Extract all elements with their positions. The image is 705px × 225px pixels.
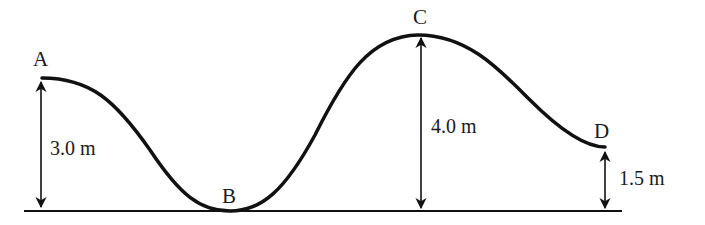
track-curve (42, 35, 605, 211)
point-label-b: B (222, 184, 236, 208)
point-label-c: C (413, 5, 427, 29)
point-label-d: D (594, 119, 609, 143)
height-label-d: 1.5 m (619, 167, 665, 189)
height-label-a: 3.0 m (50, 137, 96, 159)
point-label-a: A (33, 47, 49, 71)
track-diagram: A B C D 3.0 m 4.0 m 1.5 m (0, 0, 705, 225)
height-label-c: 4.0 m (431, 115, 477, 137)
